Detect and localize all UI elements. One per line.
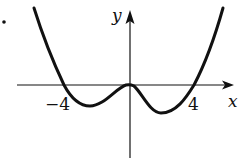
x-tick-label-neg4: −4	[45, 94, 70, 114]
x-tick-label-pos4: 4	[188, 94, 199, 114]
y-axis-label: y	[111, 5, 122, 25]
function-graph: y x −4 4	[0, 0, 240, 158]
list-bullet-dot	[2, 20, 6, 24]
x-axis-label: x	[228, 91, 238, 111]
